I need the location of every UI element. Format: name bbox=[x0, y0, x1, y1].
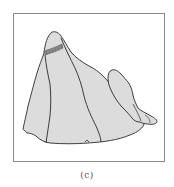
figure-caption: (c) bbox=[0, 170, 174, 180]
rock-drawing bbox=[0, 0, 174, 187]
